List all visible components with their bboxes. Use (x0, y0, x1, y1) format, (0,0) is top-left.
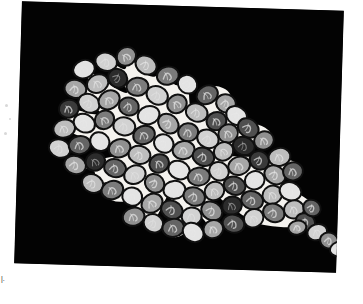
cell-body (163, 180, 186, 200)
micrograph-image (14, 1, 344, 272)
margin-artifact-bottom: |. (1, 275, 5, 282)
scanned-page: |. (0, 0, 363, 304)
scan-speckle (5, 104, 8, 107)
cell (163, 180, 186, 200)
scan-speckle (9, 118, 11, 120)
scan-speckle (4, 132, 7, 135)
cell-body (177, 123, 198, 142)
cell (177, 123, 198, 142)
micrograph-panel (14, 1, 344, 272)
